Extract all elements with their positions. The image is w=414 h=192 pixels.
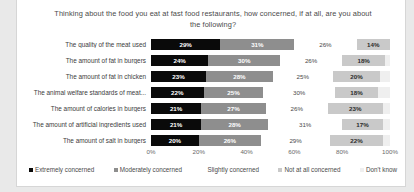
- bar-segment-value: 20%: [169, 137, 181, 144]
- bar-segment-value: 26%: [291, 105, 303, 112]
- stacked-bar: 23%28%25%20%: [151, 71, 390, 82]
- legend-swatch-icon: [278, 168, 282, 172]
- bar-segment: [385, 55, 390, 66]
- bar-segment-value: 29%: [179, 41, 191, 48]
- bar-segment: 26%: [199, 135, 261, 146]
- bar-segment: [378, 87, 390, 98]
- bar-segment: [383, 119, 390, 130]
- bar-segment-value: 27%: [227, 105, 239, 112]
- chart-legend: Extremely concernedModerately concernedS…: [27, 166, 399, 173]
- bar-segment-value: 31%: [251, 41, 263, 48]
- bar-segment: [383, 103, 390, 114]
- bar-segment: 28%: [201, 119, 268, 130]
- bar-segment-value: 23%: [172, 73, 184, 80]
- x-axis: 0%20%40%60%80%100%: [151, 148, 390, 160]
- legend-swatch-icon: [360, 168, 364, 172]
- legend-label: Don't know: [366, 166, 397, 173]
- bar-segment-value: 24%: [173, 57, 185, 64]
- bar-segment: 18%: [335, 87, 378, 98]
- bar-segment-value: 22%: [350, 137, 362, 144]
- bar-segment: 21%: [151, 119, 201, 130]
- chart-title: Thinking about the food you eat at fast …: [51, 8, 375, 30]
- chart-row: The animal welfare standards of meat...2…: [17, 84, 407, 100]
- bar-segment-value: 18%: [357, 57, 369, 64]
- row-label: The animal welfare standards of meat...: [17, 89, 151, 96]
- legend-item[interactable]: Don't know: [360, 166, 397, 173]
- bar-segment-value: 28%: [228, 121, 240, 128]
- bar-segment: 28%: [206, 71, 273, 82]
- bar-segment-value: 30%: [238, 57, 250, 64]
- bar-segment: 25%: [273, 71, 333, 82]
- bar-segment: 14%: [357, 39, 390, 50]
- legend-swatch-icon: [114, 168, 118, 172]
- bar-segment: 20%: [151, 135, 199, 146]
- bar-segment: 21%: [151, 103, 201, 114]
- chart-card: Thinking about the food you eat at fast …: [16, 0, 406, 187]
- chart-row: The amount of salt in burgers20%26%29%22…: [17, 132, 407, 148]
- bar-segment-value: 30%: [293, 89, 305, 96]
- stacked-bar: 22%25%30%18%: [151, 87, 390, 98]
- legend-label: Not at all concerned: [284, 166, 340, 173]
- bar-segment-value: 21%: [170, 105, 182, 112]
- bar-segment-value: 14%: [367, 41, 379, 48]
- x-axis-tick: 20%: [193, 148, 205, 155]
- legend-label: Moderately concerned: [120, 166, 182, 173]
- legend-item[interactable]: Slightly concerned: [202, 166, 259, 173]
- bar-segment-value: 22%: [171, 89, 183, 96]
- bar-segment: 26%: [294, 39, 356, 50]
- bar-segment: 23%: [328, 103, 383, 114]
- bar-segment-value: 18%: [350, 89, 362, 96]
- legend-item[interactable]: Moderately concerned: [114, 166, 182, 173]
- bar-segment-value: 29%: [289, 137, 301, 144]
- chart-row: The amount of calories in burgers21%27%2…: [17, 100, 407, 116]
- bar-segment-value: 26%: [224, 137, 236, 144]
- stacked-bar: 29%31%26%14%: [151, 39, 390, 50]
- bar-segment-value: 26%: [305, 57, 317, 64]
- bar-segment-value: 31%: [299, 121, 311, 128]
- x-axis-tick: 80%: [336, 148, 348, 155]
- legend-item[interactable]: Not at all concerned: [278, 166, 340, 173]
- bar-segment: 25%: [204, 87, 264, 98]
- stacked-bar: 21%27%26%23%: [151, 103, 390, 114]
- bar-segment-value: 17%: [356, 121, 368, 128]
- row-label: The amount of calories in burgers: [17, 105, 151, 112]
- bar-segment: 20%: [333, 71, 381, 82]
- chart-plot-area: The quality of the meat used29%31%26%14%…: [17, 36, 407, 148]
- bar-segment: 27%: [201, 103, 266, 114]
- legend-label: Extremely concerned: [35, 166, 94, 173]
- bar-segment-value: 23%: [349, 105, 361, 112]
- row-label: The quality of the meat used: [17, 41, 151, 48]
- legend-swatch-icon: [202, 168, 206, 172]
- legend-label: Slightly concerned: [208, 166, 259, 173]
- bar-segment: 29%: [151, 39, 220, 50]
- row-label: The amount of fat in burgers: [17, 57, 151, 64]
- bar-segment: 24%: [151, 55, 208, 66]
- bar-segment-value: 26%: [319, 41, 331, 48]
- row-label: The amount of salt in burgers: [17, 137, 151, 144]
- row-label: The amount of fat in chicken: [17, 73, 151, 80]
- legend-swatch-icon: [29, 168, 33, 172]
- row-label: The amount of artificial ingredients use…: [17, 121, 151, 128]
- bar-segment-value: 20%: [350, 73, 362, 80]
- x-axis-tick: 0%: [147, 148, 156, 155]
- bar-segment: 26%: [266, 103, 328, 114]
- chart-row: The amount of fat in burgers24%30%26%18%: [17, 52, 407, 68]
- bar-segment: 30%: [208, 55, 280, 66]
- bar-segment: 31%: [268, 119, 342, 130]
- bar-segment: 26%: [280, 55, 342, 66]
- x-axis-tick: 60%: [288, 148, 300, 155]
- bar-segment: 18%: [342, 55, 385, 66]
- chart-row: The amount of artificial ingredients use…: [17, 116, 407, 132]
- bar-segment: 17%: [342, 119, 383, 130]
- bar-segment-value: 25%: [227, 89, 239, 96]
- bar-segment: 22%: [151, 87, 204, 98]
- bar-segment: [380, 71, 390, 82]
- chart-row: The amount of fat in chicken23%28%25%20%: [17, 68, 407, 84]
- bar-segment: 31%: [220, 39, 294, 50]
- stacked-bar: 24%30%26%18%: [151, 55, 390, 66]
- bar-segment: 30%: [263, 87, 335, 98]
- bar-segment: 22%: [330, 135, 383, 146]
- screenshot-root: Thinking about the food you eat at fast …: [0, 0, 414, 192]
- chart-row: The quality of the meat used29%31%26%14%: [17, 36, 407, 52]
- legend-item[interactable]: Extremely concerned: [29, 166, 94, 173]
